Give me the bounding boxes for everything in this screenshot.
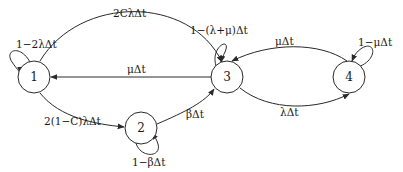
edge-label-1-3: 2CλΔt [113, 7, 147, 19]
edge-label-3-1: μΔt [127, 63, 146, 75]
node-label: 1 [30, 70, 38, 84]
edge-1-to-3 [40, 12, 222, 62]
edge-label-2-2: 1−βΔt [132, 156, 166, 168]
node-label: 2 [137, 121, 145, 135]
edge-label-3-4: λΔt [280, 106, 299, 118]
edge-3-to-4 [240, 88, 349, 106]
edge-label-4-3: μΔt [275, 35, 294, 47]
edge-label-2-3: βΔt [186, 108, 205, 120]
node-4: 4 [333, 61, 365, 93]
edge-4-to-3 [232, 47, 347, 61]
node-label: 4 [345, 70, 353, 84]
edge-label-3-3: 1−(λ+μ)Δt [190, 24, 249, 36]
state-diagram: 1 2 3 4 1−2λΔt 2CλΔt μΔt 2(1−C)λΔt 1−βΔt… [0, 0, 403, 172]
edge-label-1-2: 2(1−C)λΔt [44, 115, 102, 127]
edge-label-4-4: 1−μΔt [358, 36, 393, 48]
node-1: 1 [18, 61, 50, 93]
edge-label-1-1: 1−2λΔt [16, 38, 57, 50]
node-label: 3 [223, 70, 231, 84]
node-2: 2 [125, 112, 157, 144]
node-3: 3 [211, 61, 243, 93]
